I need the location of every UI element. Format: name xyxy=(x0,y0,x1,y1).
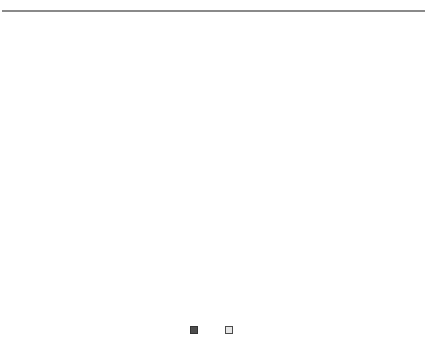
legend-swatch-icon xyxy=(190,326,198,334)
chart-bottom xyxy=(0,166,427,322)
chart-top xyxy=(0,14,427,159)
legend-item xyxy=(225,326,238,334)
chart-legend xyxy=(0,326,427,334)
legend-swatch-icon xyxy=(225,326,233,334)
legend-item xyxy=(190,326,203,334)
header-divider xyxy=(2,10,425,12)
document-page xyxy=(0,0,427,344)
